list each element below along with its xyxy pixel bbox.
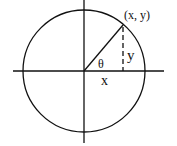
x-label: x xyxy=(101,74,108,88)
point-label: (x, y) xyxy=(124,9,150,21)
angle-label: θ xyxy=(98,58,104,70)
y-label: y xyxy=(127,48,135,63)
unit-circle-diagram xyxy=(0,0,177,146)
